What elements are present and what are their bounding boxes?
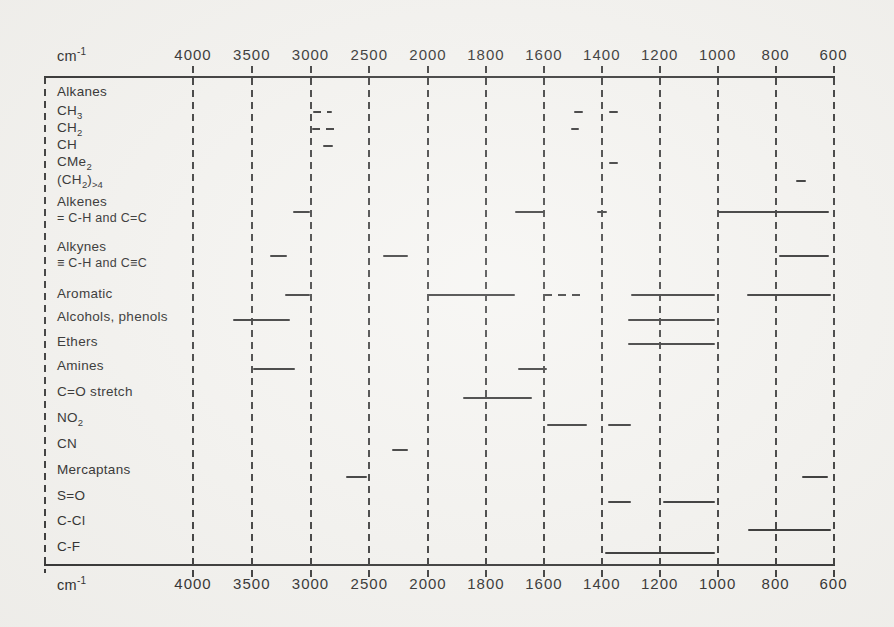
gridline-800 (775, 66, 777, 578)
unit-exponent: -1 (77, 46, 87, 57)
gridline-1600 (543, 66, 545, 578)
band-ethers-1310-1010 (628, 343, 715, 345)
band-amines-1690-1590 (518, 368, 547, 370)
gridline-2000 (427, 66, 429, 578)
band-ch2-2985-2765 (312, 128, 338, 130)
row-label-alkynes: Alkynes (57, 239, 106, 255)
gridline-1200 (659, 66, 661, 578)
band-alcohols-phenols-3660-3175 (233, 319, 290, 321)
row-label-amines: Amines (57, 358, 104, 374)
gridline-1400 (601, 66, 603, 578)
band-mercaptans-710-620 (802, 476, 828, 478)
tick-label-top-1200: 1200 (628, 46, 692, 63)
band-no2-1380-1300 (608, 424, 631, 426)
row-label-c-f: C-F (57, 539, 80, 555)
tick-label-top-3500: 3500 (220, 46, 284, 63)
tick-label-top-2500: 2500 (337, 46, 401, 63)
ir-correlation-chart: cm-1 cm-1 400040003500350030003000250025… (0, 0, 894, 627)
tick-label-top-600: 600 (802, 46, 866, 63)
tick-label-bottom-2000: 2000 (396, 575, 460, 592)
band-c-f-1390-1010 (605, 552, 715, 554)
row-sublabel-alkenes: = C-H and C=C (57, 210, 147, 226)
gridline-1000 (717, 66, 719, 578)
row-label-aromatic: Aromatic (57, 286, 113, 302)
band-ch3-1495-1465 (574, 111, 583, 113)
row-label-alcohols-phenols: Alcohols, phenols (57, 309, 168, 325)
band-ch3-2980-2820 (313, 111, 332, 113)
band-alkenes-1000-615 (718, 211, 830, 213)
gridline-4000 (192, 66, 194, 578)
gridline-3000 (310, 66, 312, 578)
band-c-cl-895-610 (748, 529, 831, 531)
gridline-600 (833, 66, 835, 578)
band-alkynes-3345-3200 (270, 255, 287, 257)
tick-label-top-1400: 1400 (570, 46, 634, 63)
band-alkynes-2380-2170 (383, 255, 408, 257)
band-cn-2310-2170 (392, 449, 408, 451)
gridline-3500 (251, 66, 253, 578)
tick-label-top-800: 800 (744, 46, 808, 63)
chart-left-border (44, 77, 46, 573)
band-ch2-1505-1480 (571, 128, 578, 130)
tick-label-bottom-2500: 2500 (337, 575, 401, 592)
tick-label-bottom-1200: 1200 (628, 575, 692, 592)
tick-label-bottom-800: 800 (744, 575, 808, 592)
row-sublabel-alkynes: ≡ C-H and C≡C (57, 255, 147, 271)
band-ch-2895-2810 (323, 145, 333, 147)
band-ch2-chain-730-695 (796, 180, 806, 182)
row-label-ethers: Ethers (57, 334, 98, 350)
tick-label-top-1800: 1800 (454, 46, 518, 63)
band-co-stretch-1880-1640 (463, 397, 533, 399)
band-alkynes-790-615 (779, 255, 830, 257)
top-axis-unit-label: cm-1 (57, 46, 86, 64)
row-label-no2: NO2 (57, 410, 83, 431)
bottom-axis-unit-label: cm-1 (57, 575, 86, 593)
band-amines-3490-3130 (253, 368, 295, 370)
tick-label-bottom-3000: 3000 (279, 575, 343, 592)
band-no2-1590-1450 (547, 424, 588, 426)
tick-label-bottom-4000: 4000 (161, 575, 225, 592)
unit-base: cm (57, 48, 77, 64)
row-label-co-stretch: C=O stretch (57, 384, 133, 400)
tick-label-top-3000: 3000 (279, 46, 343, 63)
band-alcohols-phenols-1310-1010 (628, 319, 715, 321)
row-label-mercaptans: Mercaptans (57, 462, 131, 478)
tick-label-top-4000: 4000 (161, 46, 225, 63)
gridline-1800 (485, 66, 487, 578)
tick-label-bottom-1400: 1400 (570, 575, 634, 592)
row-label-ch: CH (57, 137, 77, 153)
unit-exponent: -1 (77, 575, 87, 586)
band-aromatic-1300-1010 (631, 294, 715, 296)
band-s-o-1380-1300 (608, 501, 631, 503)
gridline-2500 (368, 66, 370, 578)
tick-label-bottom-1000: 1000 (686, 575, 750, 592)
tick-label-bottom-3500: 3500 (220, 575, 284, 592)
band-mercaptans-2700-2520 (346, 476, 367, 478)
tick-label-top-2000: 2000 (396, 46, 460, 63)
tick-label-bottom-1800: 1800 (454, 575, 518, 592)
band-alkenes-3150-3000 (293, 211, 311, 213)
tick-label-top-1600: 1600 (512, 46, 576, 63)
band-s-o-1190-1010 (663, 501, 715, 503)
band-ch3-1375-1345 (609, 111, 618, 113)
band-aromatic-1600-1460 (544, 294, 585, 296)
row-label-c-cl: C-Cl (57, 513, 85, 529)
tick-label-bottom-1600: 1600 (512, 575, 576, 592)
band-aromatic-900-610 (747, 294, 831, 296)
row-label-alkanes: Alkanes (57, 84, 107, 100)
tick-label-top-1000: 1000 (686, 46, 750, 63)
row-label-ch2-chain: (CH2)>4 (57, 172, 103, 193)
row-label-s-o: S=O (57, 488, 85, 504)
band-cme2-1375-1345 (609, 162, 618, 164)
band-alkenes-1415-1380 (597, 211, 607, 213)
unit-base: cm (57, 577, 77, 593)
band-aromatic-3220-3000 (285, 294, 311, 296)
tick-label-bottom-600: 600 (802, 575, 866, 592)
row-label-alkenes: Alkenes (57, 194, 107, 210)
row-label-cn: CN (57, 436, 77, 452)
band-alkenes-1700-1600 (515, 211, 544, 213)
band-aromatic-2000-1700 (428, 294, 515, 296)
